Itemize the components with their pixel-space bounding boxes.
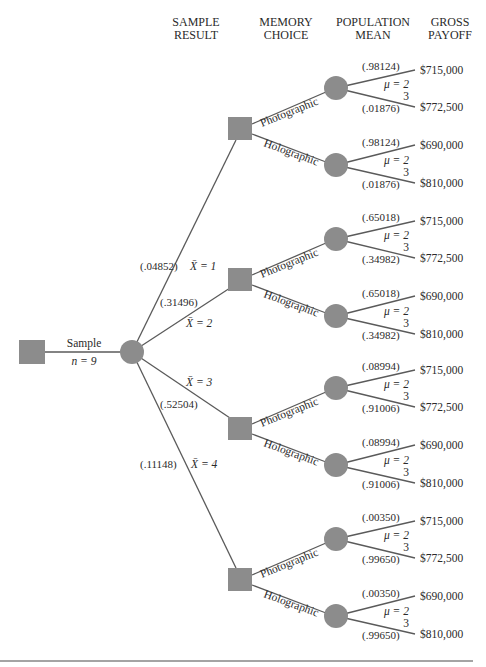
header-sample-result-line2: RESULT: [174, 28, 219, 42]
posterior-mu3: (.99650): [362, 629, 400, 642]
payoff-photo-mu2: $715,000: [420, 515, 463, 528]
memory-decision-node-2: [228, 268, 252, 291]
header-population-mean-line1: POPULATION: [336, 15, 410, 29]
posterior-mu2: (.65018): [362, 287, 400, 300]
xbar1-label: X̄ = 1: [189, 260, 216, 272]
photographic-branch-label: Photographic: [258, 395, 320, 430]
mu-label-3: 3: [403, 317, 409, 329]
payoff-holo-mu2: $690,000: [420, 590, 463, 603]
payoff-photo-mu3: $772,500: [420, 252, 463, 265]
sample-result-branches: [132, 140, 236, 568]
payoff-photo-mu3: $772,500: [420, 401, 463, 414]
mu-label-3: 3: [403, 241, 409, 253]
payoff-holo-mu3: $810,000: [420, 177, 463, 190]
memory-decision-node-3: [228, 417, 252, 440]
payoff-holo-mu2: $690,000: [420, 290, 463, 303]
header-sample-result-line1: SAMPLE: [172, 15, 219, 29]
payoff-holo-mu3: $810,000: [420, 477, 463, 490]
mu-label-3: 3: [403, 166, 409, 178]
payoff-holo-mu3: $810,000: [420, 328, 463, 341]
photographic-branch-label: Photographic: [258, 246, 320, 281]
xbar3-label: X̄ = 3: [185, 376, 213, 388]
posterior-mu2: (.98124): [362, 136, 400, 149]
population-chance-node: [324, 604, 348, 628]
payoff-photo-mu2: $715,000: [420, 364, 463, 377]
posterior-mu2: (.08994): [362, 436, 400, 449]
header-memory-choice-line2: CHOICE: [264, 28, 309, 42]
subtree-xbar3: Photographic Holographic (.08994) μ = 2 …: [228, 360, 463, 491]
header-population-mean-line2: MEAN: [355, 28, 391, 42]
posterior-mu2: (.65018): [362, 211, 400, 224]
xbar4-probability: (.11148): [140, 458, 177, 471]
posterior-mu3: (.34982): [362, 253, 400, 266]
subtree-xbar1: Photographic Holographic (.98124) μ = 2 …: [228, 60, 463, 191]
posterior-mu2: (.08994): [362, 360, 400, 373]
population-chance-node: [324, 153, 348, 177]
posterior-mu2: (.98124): [362, 60, 400, 73]
header-memory-choice-line1: MEMORY: [259, 15, 313, 29]
photographic-branch-label: Photographic: [258, 95, 320, 130]
sample-branch-label: Sample: [67, 337, 102, 350]
subtree-xbar2: Photographic Holographic (.65018) μ = 2 …: [228, 211, 463, 342]
population-chance-node: [324, 453, 348, 477]
payoff-holo-mu2: $690,000: [420, 139, 463, 152]
population-chance-node: [324, 527, 348, 551]
payoff-photo-mu3: $772,500: [420, 101, 463, 114]
header-gross-payoff-line2: PAYOFF: [428, 28, 472, 42]
mu-label-3: 3: [403, 617, 409, 629]
column-headers: SAMPLE RESULT MEMORY CHOICE POPULATION M…: [172, 15, 472, 42]
xbar3-probability: (.52504): [160, 398, 198, 411]
payoff-photo-mu2: $715,000: [420, 215, 463, 228]
memory-decision-node-4: [228, 568, 252, 591]
population-chance-node: [324, 76, 348, 100]
posterior-mu3: (.01876): [362, 178, 400, 191]
photographic-branch-label: Photographic: [258, 546, 320, 581]
holographic-branch-label: Holographic: [262, 588, 320, 620]
posterior-mu3: (.99650): [362, 553, 400, 566]
holographic-branch-label: Holographic: [262, 288, 320, 320]
xbar2-label: X̄ = 2: [185, 317, 213, 329]
sample-size-label: n = 9: [71, 355, 96, 367]
root-decision-node: [19, 340, 45, 364]
posterior-mu3: (.01876): [362, 102, 400, 115]
posterior-mu2: (.00350): [362, 511, 400, 524]
sample-chance-node: [120, 340, 144, 364]
population-chance-node: [324, 304, 348, 328]
xbar1-probability: (.04852): [140, 260, 178, 273]
population-chance-node: [324, 227, 348, 251]
holographic-branch-label: Holographic: [262, 137, 320, 169]
mu-label-3: 3: [403, 541, 409, 553]
mu-label-3: 3: [403, 466, 409, 478]
payoff-holo-mu2: $690,000: [420, 439, 463, 452]
population-chance-node: [324, 376, 348, 400]
posterior-mu3: (.91006): [362, 402, 400, 415]
mu-label-3: 3: [403, 390, 409, 402]
posterior-mu3: (.91006): [362, 478, 400, 491]
holographic-branch-label: Holographic: [262, 437, 320, 469]
payoff-photo-mu3: $772,500: [420, 552, 463, 565]
posterior-mu2: (.00350): [362, 587, 400, 600]
header-gross-payoff-line1: GROSS: [431, 15, 470, 29]
payoff-photo-mu2: $715,000: [420, 64, 463, 77]
memory-decision-node-1: [228, 117, 252, 140]
payoff-holo-mu3: $810,000: [420, 628, 463, 641]
decision-tree-diagram: SAMPLE RESULT MEMORY CHOICE POPULATION M…: [0, 0, 486, 667]
posterior-mu3: (.34982): [362, 329, 400, 342]
xbar2-probability: (.31496): [160, 296, 198, 309]
subtree-xbar4: Photographic Holographic (.00350) μ = 2 …: [228, 511, 463, 642]
xbar4-label: X̄ = 4: [190, 458, 218, 470]
mu-label-3: 3: [403, 90, 409, 102]
